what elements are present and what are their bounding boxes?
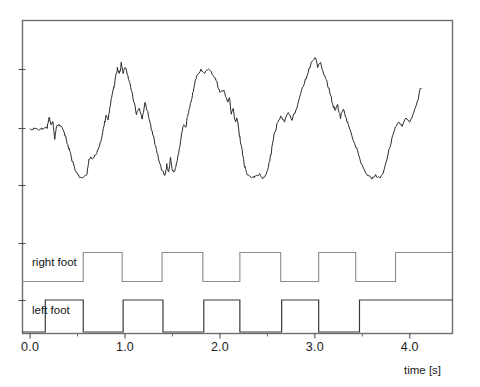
- plot-canvas: [0, 0, 480, 387]
- left-foot-label: left foot: [32, 304, 70, 316]
- x-tick-label-1: 1.0: [116, 340, 134, 354]
- axes-border: [23, 21, 453, 334]
- x-tick-label-0: 0.0: [21, 340, 39, 354]
- x-axis-title: time [s]: [404, 364, 441, 376]
- right-foot-label: right foot: [32, 256, 77, 268]
- x-tick-label-2: 2.0: [211, 340, 229, 354]
- plot-frame: [23, 21, 453, 334]
- x-tick-label-4: 4.0: [401, 340, 419, 354]
- x-axis-ticks: [30, 334, 410, 339]
- gait-signal-figure: right foot left foot 0.0 1.0 2.0 3.0 4.0…: [0, 0, 480, 387]
- x-tick-label-3: 3.0: [306, 340, 324, 354]
